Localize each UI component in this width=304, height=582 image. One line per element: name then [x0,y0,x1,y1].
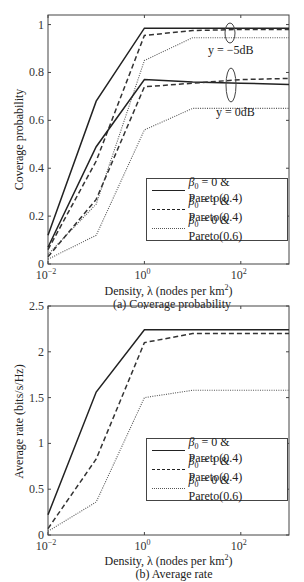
legend-text: β0 = 0 & Pareto(0.6) [189,473,282,504]
annotation-ellipse-minus5db [225,23,235,43]
legend-item-dotted: β0 = 0 & Pareto(0.6) [152,479,282,498]
y-tick-label: 0.6 [29,113,44,127]
x-tick-label: 10−2 [36,267,57,282]
y-tick-label: 0.5 [29,482,44,496]
x-tick-label: 102 [231,538,247,553]
solid-line-swatch [152,190,185,191]
y-tick-label: 0.4 [29,161,44,175]
annotation-minus5db: y = −5dB [208,43,254,58]
dashed-line-swatch [152,209,185,210]
y-tick-label: 1.5 [29,391,44,405]
coverage-probability-figure: 00.20.40.60.8110−2100102 Coverage probab… [0,0,304,300]
y-axis-label: Average rate (bits/s/Hz) [12,347,27,497]
x-tick-label: 100 [134,267,150,282]
legend-item-dotted: β0 = 0 & Pareto(0.6) [152,219,282,238]
y-tick-label: 2.5 [29,299,44,313]
coverage-probability-plot: 00.20.40.60.8110−2100102 [0,0,304,300]
y-tick-label: 0.2 [29,209,44,223]
x-tick-label: 10−2 [36,538,57,553]
annotation-0db: y = 0dB [216,105,255,120]
dashed-line-swatch [152,469,185,470]
y-axis-label: Coverage probability [12,75,27,205]
legend: β0 = 0 & Pareto(0.4) β0 = 1 & Pareto(0.4… [146,178,288,241]
average-rate-figure: 00.511.522.510−2100102 Average rate (bit… [0,290,304,582]
y-tick-label: 0.8 [29,65,44,79]
dotted-line-swatch [152,228,185,229]
y-tick-label: 1 [38,18,44,32]
y-tick-label: 1 [38,436,44,450]
y-tick-label: 2 [38,345,44,359]
solid-line-swatch [152,450,185,451]
annotation-ellipse-0db [226,68,236,102]
x-tick-label: 100 [134,538,150,553]
dotted-line-swatch [152,488,185,489]
legend: β0 = 0 & Pareto(0.4) β0 = 1 & Pareto(0.4… [146,438,288,501]
figure-caption: (b) Average rate [22,567,304,582]
x-tick-label: 102 [231,267,247,282]
legend-text: β0 = 0 & Pareto(0.6) [189,213,282,244]
